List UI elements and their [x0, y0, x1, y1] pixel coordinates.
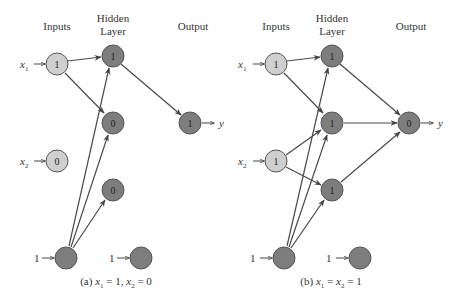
header-hidden-line1: Hidden	[97, 12, 130, 24]
svg-text:1: 1	[55, 59, 60, 70]
caption-b: (b) x1 = x2 = 1	[300, 275, 361, 290]
input-label-x2: x2	[237, 155, 247, 170]
panel-b: Inputs Hidden Layer Output x1 x2 1 1 y	[237, 12, 443, 290]
header-output: Output	[178, 20, 209, 32]
node-x1: 1	[46, 53, 68, 75]
node-h3: 0	[102, 179, 124, 201]
edge-x1-h2	[284, 73, 323, 113]
node-output: 1	[179, 112, 201, 134]
edges-b	[284, 57, 400, 248]
output-label-y: y	[437, 117, 443, 129]
edge-h1-out	[340, 64, 400, 115]
edge-h3-out	[341, 132, 400, 182]
node-hidden-bias	[130, 247, 152, 269]
svg-text:1: 1	[330, 185, 335, 196]
edge-x1-h1	[287, 57, 320, 61]
edges-a	[65, 57, 181, 248]
node-x2: 0	[46, 150, 68, 172]
svg-text:1: 1	[274, 156, 279, 167]
node-input-bias	[273, 247, 295, 269]
output-label-y: y	[218, 117, 224, 129]
node-hidden-bias	[349, 247, 371, 269]
svg-text:1: 1	[188, 118, 193, 129]
node-h1: 1	[321, 45, 343, 67]
hidden-bias-label: 1	[326, 252, 332, 264]
edge-b-h1	[69, 68, 109, 246]
node-h1: 1	[102, 45, 124, 67]
svg-text:0: 0	[111, 185, 116, 196]
svg-text:1: 1	[274, 59, 279, 70]
svg-text:1: 1	[330, 51, 335, 62]
header-hidden-line2: Layer	[319, 25, 345, 37]
svg-text:1: 1	[111, 51, 116, 62]
node-x1: 1	[265, 53, 287, 75]
node-output: 0	[398, 112, 420, 134]
caption-a: (a) x1 = 1, x2 = 0	[80, 275, 152, 290]
edge-b-h1	[287, 68, 328, 246]
input-label-x1: x1	[237, 58, 247, 73]
neural-network-diagram: Inputs Hidden Layer Output x1 x2 1 1 y	[0, 0, 461, 303]
node-x2: 1	[265, 150, 287, 172]
header-inputs: Inputs	[43, 20, 71, 32]
input-bias-label: 1	[250, 252, 256, 264]
header-inputs: Inputs	[262, 20, 290, 32]
hidden-bias-label: 1	[109, 252, 115, 264]
input-label-x2: x2	[19, 155, 29, 170]
edge-h1-out	[121, 64, 181, 115]
svg-text:0: 0	[111, 118, 116, 129]
node-input-bias	[55, 247, 77, 269]
edge-x1-h2	[65, 73, 104, 113]
header-hidden-line1: Hidden	[316, 12, 349, 24]
svg-text:1: 1	[330, 118, 335, 129]
header-hidden-line2: Layer	[100, 25, 126, 37]
edge-x2-h2	[286, 130, 321, 155]
svg-text:0: 0	[407, 118, 412, 129]
node-h2: 1	[321, 112, 343, 134]
node-h2: 0	[102, 112, 124, 134]
header-output: Output	[396, 20, 427, 32]
input-label-x1: x1	[19, 58, 29, 73]
svg-text:0: 0	[55, 156, 60, 167]
panel-a: Inputs Hidden Layer Output x1 x2 1 1 y	[19, 12, 224, 290]
input-bias-label: 1	[34, 252, 40, 264]
edge-x1-h1	[68, 57, 101, 61]
node-h3: 1	[321, 179, 343, 201]
